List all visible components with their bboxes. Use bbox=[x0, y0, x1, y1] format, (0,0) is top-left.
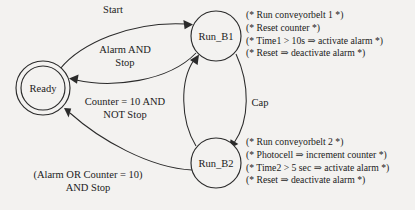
state-label-ready: Ready bbox=[30, 83, 58, 94]
annotation-run-b1-line-1: (* Run conveyorbelt 1 *) bbox=[246, 9, 383, 22]
annotation-run-b1-line-4: (* Reset ⇒ deactivate alarm *) bbox=[246, 47, 383, 60]
transition-label-counter-notstop: Counter = 10 AND NOT Stop bbox=[62, 96, 188, 121]
transition-label-alarm-or-counter-line2: AND Stop bbox=[10, 182, 166, 195]
transition-label-alarm-or-counter: (Alarm OR Counter = 10) AND Stop bbox=[10, 169, 166, 194]
transition-label-counter-notstop-line2: NOT Stop bbox=[62, 109, 188, 122]
annotation-run-b2-line-4: (* Reset ⇒ deactivate alarm *) bbox=[246, 174, 389, 187]
transition-start-arrowhead bbox=[183, 20, 193, 29]
annotation-run-b1-line-3: (* Time1 > 10s ⇒ activate alarm *) bbox=[246, 35, 383, 48]
state-label-run-b1: Run_B1 bbox=[198, 31, 233, 42]
transition-label-alarm-stop-line2: Stop bbox=[77, 57, 173, 70]
annotation-run-b2-line-1: (* Run conveyorbelt 2 *) bbox=[246, 136, 389, 149]
transition-label-alarm-stop: Alarm AND Stop bbox=[77, 44, 173, 69]
transition-alarm-or-counter-edge bbox=[70, 113, 192, 170]
state-label-run-b2: Run_B2 bbox=[198, 158, 233, 169]
annotation-run-b2-line-2: (* Photocell ⇒ increment counter *) bbox=[246, 149, 389, 162]
transition-label-cap: Cap bbox=[243, 97, 277, 110]
transition-alarm-stop-arrowhead bbox=[69, 75, 79, 84]
annotation-run-b1-line-2: (* Reset counter *) bbox=[246, 22, 383, 35]
annotation-run-b2-line-3: (* Time2 > 5 sec ⇒ activate alarm *) bbox=[246, 162, 389, 175]
transition-label-alarm-stop-line1: Alarm AND bbox=[77, 44, 173, 57]
transition-label-counter-notstop-line1: Counter = 10 AND bbox=[62, 96, 188, 109]
transition-label-alarm-or-counter-line1: (Alarm OR Counter = 10) bbox=[10, 169, 166, 182]
annotation-run-b1-actions: (* Run conveyorbelt 1 *) (* Reset counte… bbox=[246, 9, 383, 60]
state-diagram-canvas: Ready Run_B1 Run_B2 Start Alarm AND Stop… bbox=[0, 0, 415, 210]
annotation-run-b2-actions: (* Run conveyorbelt 2 *) (* Photocell ⇒ … bbox=[246, 136, 389, 187]
transition-label-start: Start bbox=[83, 4, 143, 17]
